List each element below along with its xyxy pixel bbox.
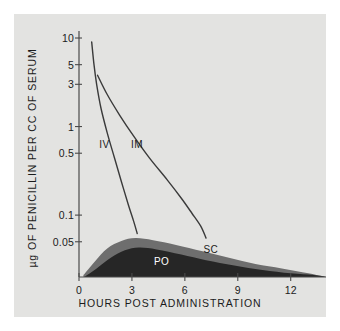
x-axis-tick-label: 6 bbox=[182, 284, 188, 296]
x-axis-tick-label: 3 bbox=[129, 284, 135, 296]
x-axis-tick-label: 9 bbox=[235, 284, 241, 296]
curve-label-po: PO bbox=[154, 256, 169, 267]
x-axis-tick-label: 0 bbox=[76, 284, 82, 296]
figure-container: 105310.50.10.05 036912 µg OF PENICILLIN … bbox=[0, 0, 340, 331]
curve-label-sc: SC bbox=[203, 244, 218, 255]
x-axis-title: HOURS POST ADMINISTRATION bbox=[0, 297, 340, 309]
curve-label-im: IM bbox=[131, 139, 143, 150]
curve-label-iv: IV bbox=[99, 139, 109, 150]
x-axis-tick-labels: 036912 bbox=[0, 0, 340, 331]
y-axis-title: µg OF PENICILLIN PER CC OF SERUM bbox=[26, 43, 38, 273]
x-axis-tick-label: 12 bbox=[285, 284, 297, 296]
